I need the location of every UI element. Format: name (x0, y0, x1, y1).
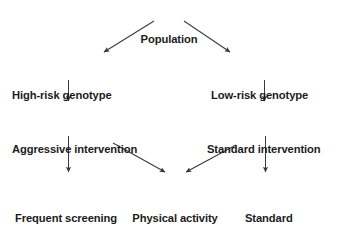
node-frequent-screening-chemoprevention: Frequent screening Chemoprevention (15, 185, 117, 236)
flowchart-diagram: Population High-risk genotype Low-risk g… (0, 0, 343, 236)
node-standard-intervention-label: Standard intervention (207, 143, 321, 157)
node-physical-activity-label: Physical activity (132, 212, 217, 226)
node-aggressive-intervention: Aggressive intervention (12, 116, 137, 184)
node-standard-screening: Standard screening (245, 185, 297, 236)
node-standard-intervention: Standard intervention (207, 116, 321, 184)
node-low-risk-genotype-label: Low-risk genotype (211, 89, 308, 103)
node-frequent-screening-label: Frequent screening (15, 212, 117, 226)
node-aggressive-intervention-label: Aggressive intervention (12, 143, 137, 157)
node-population: Population (141, 6, 198, 74)
node-population-label: Population (141, 33, 198, 47)
node-lifestyle-factors: Physical activity Diet Tobacco (132, 185, 217, 236)
node-high-risk-genotype-label: High-risk genotype (12, 89, 112, 103)
node-standard-label: Standard (245, 212, 297, 226)
